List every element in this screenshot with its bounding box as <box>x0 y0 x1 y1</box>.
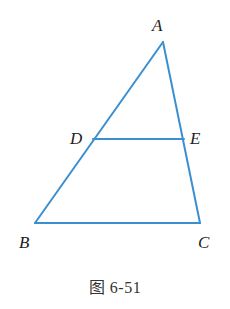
segment-AB <box>35 42 163 223</box>
segments-layer <box>35 42 200 223</box>
point-label-e: E <box>189 129 201 148</box>
triangle-diagram: A B C D E <box>0 0 230 309</box>
point-label-a: A <box>151 16 163 35</box>
figure-caption: 图 6-51 <box>0 274 230 298</box>
point-label-b: B <box>19 233 30 252</box>
point-label-d: D <box>69 129 83 148</box>
point-label-c: C <box>198 233 210 252</box>
